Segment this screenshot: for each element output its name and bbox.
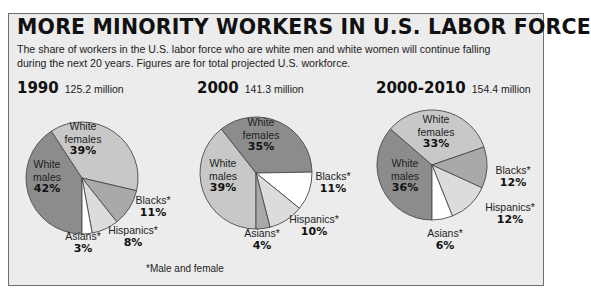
pie-1990-heading: 1990125.2 million xyxy=(17,79,124,97)
pie-total: 125.2 million xyxy=(65,83,124,95)
pie-2010-heading: 2000-2010154.4 million xyxy=(376,79,531,97)
label-white-males-2010: White males36% xyxy=(391,157,419,195)
pie-year: 2000 xyxy=(197,79,239,97)
pie-year: 2000-2010 xyxy=(376,79,466,97)
label-white-females-2010: White females33% xyxy=(418,113,455,151)
pie-total: 154.4 million xyxy=(472,83,531,95)
label-white-males-1990: White males42% xyxy=(33,158,61,196)
label-hispanics-2010: Hispanics*12% xyxy=(485,201,535,226)
label-asians-1990: Asians*3% xyxy=(65,230,101,255)
pie-2000-heading: 2000141.3 million xyxy=(197,79,304,97)
label-blacks-2010: Blacks*12% xyxy=(495,164,530,189)
label-white-females-1990: White females39% xyxy=(65,120,102,158)
footnote: *Male and female xyxy=(146,263,224,274)
chart-subtitle: The share of workers in the U.S. labor f… xyxy=(17,42,517,70)
pie-total: 141.3 million xyxy=(245,83,304,95)
label-white-males-2000: White males39% xyxy=(209,157,237,195)
label-blacks-1990: Blacks*11% xyxy=(135,194,170,219)
label-hispanics-2000: Hispanics*10% xyxy=(289,213,339,238)
label-blacks-2000: Blacks*11% xyxy=(315,170,350,195)
pie-year: 1990 xyxy=(17,79,59,97)
chart-title: MORE MINORITY WORKERS IN U.S. LABOR FORC… xyxy=(17,14,591,39)
label-asians-2000: Asians*4% xyxy=(244,227,280,252)
label-asians-2010: Asians*6% xyxy=(427,227,463,252)
label-hispanics-1990: Hispanics*8% xyxy=(108,224,158,249)
label-white-females-2000: White females35% xyxy=(243,116,280,154)
